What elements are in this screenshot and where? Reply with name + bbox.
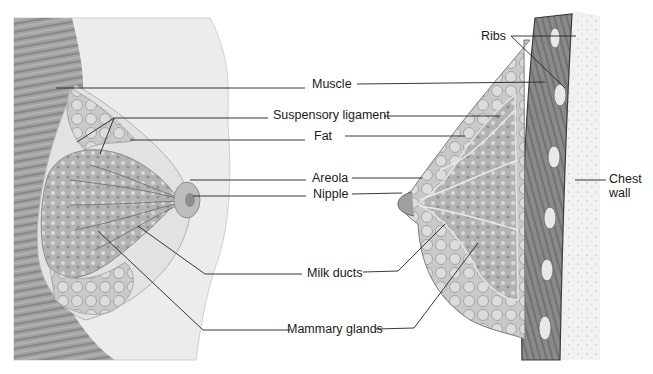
sagittal-view [398,12,600,360]
label-mammary-glands: Mammary glands [287,322,383,336]
breast-anatomy-diagram: Ribs Muscle Suspensory ligament Fat Areo… [0,0,653,374]
nipple-drawing [185,193,195,207]
label-ribs: Ribs [481,29,506,43]
label-chest-wall-line1: Chest [609,172,642,186]
label-milk-ducts: Milk ducts [307,266,363,280]
label-suspensory-ligament: Suspensory ligament [273,108,390,122]
label-chest-wall-line2: wall [609,186,631,200]
label-fat: Fat [314,129,332,143]
label-nipple: Nipple [313,187,348,201]
nipple-profile [398,192,414,216]
label-muscle: Muscle [312,77,352,91]
frontal-view [14,18,230,360]
label-areola: Areola [312,171,348,185]
